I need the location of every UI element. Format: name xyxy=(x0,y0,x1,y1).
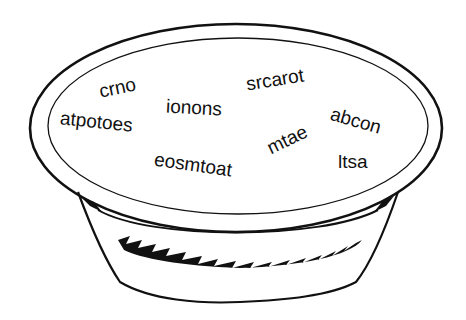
bowl-figure: crno atpotoes ionons srcarot abcon mtae … xyxy=(0,0,466,320)
word-label: ltsa xyxy=(338,152,368,171)
zigzag-band xyxy=(118,236,362,268)
word-label: ionons xyxy=(166,97,223,119)
